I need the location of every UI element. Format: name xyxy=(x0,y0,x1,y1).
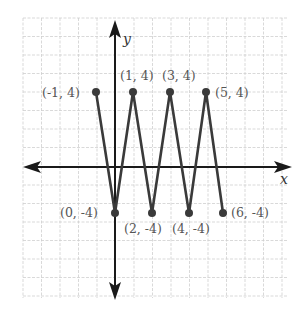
label-0-neg4: (0, -4) xyxy=(60,205,98,220)
label-6-neg4: (6, -4) xyxy=(231,205,269,220)
point-1-4 xyxy=(129,88,137,96)
point-neg1-4 xyxy=(92,88,100,96)
label-5-4: (5, 4) xyxy=(215,85,249,100)
grid xyxy=(23,18,288,298)
point-5-4 xyxy=(202,88,210,96)
label-neg1-4: (-1, 4) xyxy=(42,85,80,100)
y-axis: y xyxy=(109,20,132,300)
zigzag-graph: x y (-1, 4) (1, 4) (3, 4) (5, 4) (0, -4)… xyxy=(0,0,306,318)
point-0-neg4 xyxy=(111,209,119,217)
point-4-neg4 xyxy=(185,209,193,217)
point-6-neg4 xyxy=(219,209,227,217)
point-3-4 xyxy=(166,88,174,96)
label-3-4: (3, 4) xyxy=(162,68,196,83)
point-labels: (-1, 4) (1, 4) (3, 4) (5, 4) (0, -4) (2,… xyxy=(42,68,269,236)
label-4-neg4: (4, -4) xyxy=(172,221,210,236)
point-2-neg4 xyxy=(148,209,156,217)
y-axis-label: y xyxy=(122,31,132,47)
label-2-neg4: (2, -4) xyxy=(124,221,162,236)
x-axis-label: x xyxy=(280,171,288,187)
label-1-4: (1, 4) xyxy=(120,68,154,83)
